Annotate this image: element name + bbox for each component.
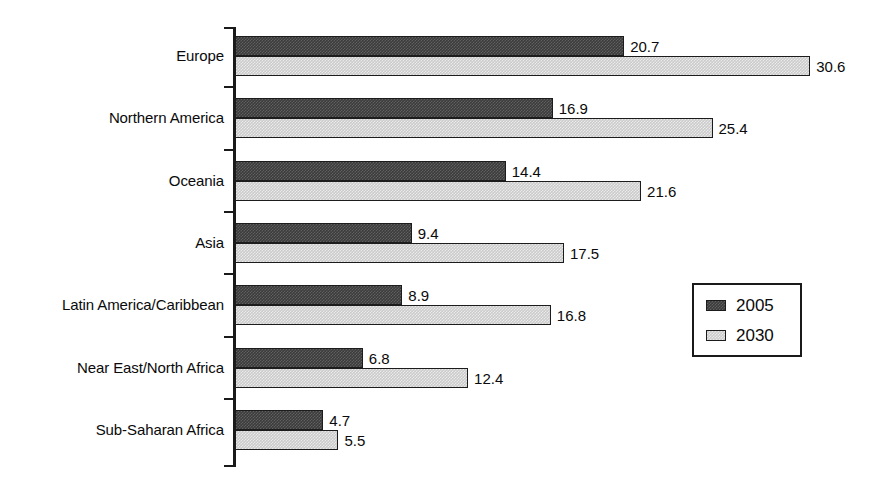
bar-value-label: 17.5: [570, 246, 599, 261]
bar-2005: [235, 348, 363, 368]
dark-swatch-icon: [706, 300, 726, 311]
legend-item-2030: 2030: [706, 324, 786, 346]
bar-2030: [235, 118, 713, 138]
bar-2005: [235, 36, 624, 56]
bar-value-label: 14.4: [512, 164, 541, 179]
bar-value-label: 6.8: [369, 351, 390, 366]
bar-2005: [235, 410, 323, 430]
bar-2030: [235, 305, 551, 325]
legend-label-2005: 2005: [736, 297, 774, 314]
axis-tick: [224, 273, 233, 275]
bar-2005: [235, 98, 553, 118]
bar-chart: EuropeNorthern AmericaOceaniaAsiaLatin A…: [0, 0, 874, 492]
axis-tick: [224, 86, 233, 88]
bar-value-label: 12.4: [474, 371, 503, 386]
bar-value-label: 21.6: [647, 184, 676, 199]
bar-2030: [235, 181, 641, 201]
axis-tick: [224, 149, 233, 151]
bar-value-label: 20.7: [630, 39, 659, 54]
axis-tick: [224, 465, 233, 467]
axis-tick: [224, 398, 233, 400]
legend-item-2005: 2005: [706, 294, 786, 316]
bar-2005: [235, 161, 506, 181]
bar-value-label: 16.8: [557, 308, 586, 323]
bar-value-label: 16.9: [559, 101, 588, 116]
axis-tick: [224, 336, 233, 338]
bar-2005: [235, 223, 412, 243]
bar-value-label: 30.6: [816, 59, 845, 74]
category-label: Europe: [0, 48, 224, 63]
category-label: Northern America: [0, 110, 224, 125]
axis-tick: [224, 211, 233, 213]
chart-legend: 2005 2030: [692, 283, 802, 357]
legend-label-2030: 2030: [736, 327, 774, 344]
bar-value-label: 9.4: [418, 226, 439, 241]
bar-value-label: 4.7: [329, 413, 350, 428]
bar-2030: [235, 430, 338, 450]
category-label: Sub-Saharan Africa: [0, 422, 224, 437]
bar-2005: [235, 285, 402, 305]
bar-2030: [235, 56, 810, 76]
bar-value-label: 8.9: [408, 288, 429, 303]
category-label: Asia: [0, 235, 224, 250]
bar-2030: [235, 368, 468, 388]
light-swatch-icon: [706, 330, 726, 341]
category-label: Near East/North Africa: [0, 360, 224, 375]
category-label: Latin America/Caribbean: [0, 297, 224, 312]
category-label: Oceania: [0, 173, 224, 188]
bar-value-label: 25.4: [719, 121, 748, 136]
bar-value-label: 5.5: [344, 433, 365, 448]
axis-tick: [224, 27, 233, 29]
bar-2030: [235, 243, 564, 263]
